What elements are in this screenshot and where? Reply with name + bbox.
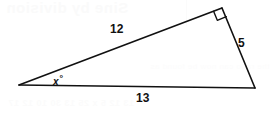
side-label-5: 5: [238, 36, 245, 50]
side-12-line: [19, 8, 222, 85]
angle-variable: x: [53, 76, 59, 87]
side-label-13: 13: [136, 91, 149, 105]
angle-label-x: x°: [53, 73, 63, 87]
triangle-svg: [0, 0, 270, 113]
degree-symbol: °: [60, 73, 64, 83]
side-label-12: 12: [110, 22, 123, 36]
triangle-figure: Sine by division the ratio can now be fo…: [0, 0, 270, 113]
